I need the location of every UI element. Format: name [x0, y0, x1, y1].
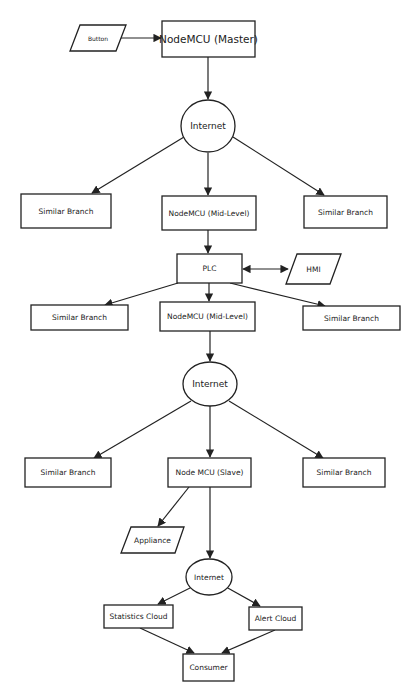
node-alert-cloud: Alert Cloud — [249, 607, 302, 630]
node-label: Similar Branch — [39, 207, 94, 216]
node-nodemcu-midlevel-2: NodeMCU (Mid-Level) — [160, 302, 255, 331]
node-internet-1: Internet — [181, 100, 235, 152]
edge-alert-cloud-to-consumer — [222, 630, 275, 653]
node-label: Similar Branch — [317, 468, 372, 477]
node-appliance: Appliance — [121, 527, 184, 553]
node-internet-3: Internet — [186, 559, 232, 595]
node-nodemcu-master: NodeMCU (Master) — [159, 21, 258, 57]
edge-slave-to-appliance — [158, 487, 189, 526]
node-label: NodeMCU (Master) — [159, 33, 258, 45]
flowchart-diagram: Button NodeMCU (Master) Internet Similar… — [0, 0, 417, 698]
node-button: Button — [70, 25, 126, 51]
node-label: Similar Branch — [318, 208, 373, 217]
node-label: Similar Branch — [324, 314, 379, 323]
node-internet-2: Internet — [183, 362, 237, 406]
node-similar-branch-right-1: Similar Branch — [304, 196, 387, 228]
node-similar-branch-right-3: Similar Branch — [303, 458, 385, 487]
node-plc: PLC — [177, 254, 242, 283]
node-label: PLC — [203, 264, 217, 273]
node-label: NodeMCU (Mid-Level) — [169, 209, 250, 218]
node-label: NodeMCU (Mid-Level) — [167, 312, 248, 321]
node-hmi: HMI — [286, 254, 341, 284]
node-label: Consumer — [189, 663, 228, 672]
node-label: Internet — [194, 573, 224, 582]
node-label: Node MCU (Slave) — [176, 468, 244, 477]
edge-internet2-to-branch-l3 — [94, 401, 191, 458]
node-label: Internet — [192, 379, 228, 389]
edge-internet3-to-stats-cloud — [158, 587, 192, 604]
edge-internet1-to-branch-l1 — [92, 137, 184, 193]
node-label: Button — [88, 35, 108, 42]
node-similar-branch-left-3: Similar Branch — [25, 458, 111, 487]
node-label: Statistics Cloud — [109, 612, 167, 621]
node-label: Internet — [190, 121, 226, 131]
node-similar-branch-left-2: Similar Branch — [31, 305, 128, 330]
node-statistics-cloud: Statistics Cloud — [104, 605, 173, 628]
node-nodemcu-midlevel-1: NodeMCU (Mid-Level) — [162, 196, 256, 230]
edge-internet2-to-branch-r3 — [229, 401, 323, 458]
node-label: Similar Branch — [52, 313, 107, 322]
node-similar-branch-left-1: Similar Branch — [21, 194, 111, 228]
node-label: Alert Cloud — [255, 614, 297, 623]
edge-stats-cloud-to-consumer — [140, 628, 194, 653]
node-nodemcu-slave: Node MCU (Slave) — [168, 458, 251, 487]
edge-internet1-to-branch-r1 — [233, 137, 324, 195]
node-label: Similar Branch — [41, 468, 96, 477]
node-label: Appliance — [134, 536, 171, 545]
edge-internet3-to-alert-cloud — [226, 587, 260, 606]
node-label: HMI — [306, 265, 320, 274]
node-similar-branch-right-2: Similar Branch — [303, 306, 400, 330]
node-consumer: Consumer — [183, 654, 234, 681]
